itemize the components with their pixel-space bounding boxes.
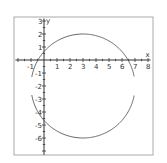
y-tick-label: -5 <box>35 122 42 130</box>
x-tick-label: 6 <box>120 63 125 71</box>
x-tick-label: -1 <box>27 63 34 71</box>
x-tick-label: 8 <box>146 63 150 71</box>
x-tick-label: 3 <box>81 63 85 71</box>
y-tick-label: -6 <box>35 135 43 143</box>
y-tick-label: -3 <box>35 96 42 104</box>
x-tick-label: 1 <box>55 63 59 71</box>
x-tick-label: 7 <box>133 63 137 71</box>
y-tick-label: 2 <box>38 31 42 39</box>
plot-area: -112345678321-1-2-3-4-5-6xy <box>0 0 167 163</box>
y-tick-label: 3 <box>38 18 42 26</box>
y-tick-label: 1 <box>38 44 42 52</box>
x-tick-label: 2 <box>68 63 72 71</box>
x-axis-label: x <box>146 51 150 59</box>
y-tick-label: -1 <box>35 70 42 78</box>
y-axis-label: y <box>46 17 50 25</box>
y-tick-label: -2 <box>35 83 42 91</box>
x-tick-label: 4 <box>94 63 99 71</box>
x-tick-label: 5 <box>107 63 111 71</box>
